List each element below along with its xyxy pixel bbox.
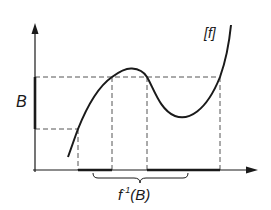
set-B-label: B [16,94,27,110]
preimage-label: f-1(B) [118,187,150,202]
highlighted-intervals [35,77,220,170]
x-axis-arrow-icon [246,167,258,174]
preimage-exponent: -1 [122,185,130,195]
y-axis-arrow-icon [32,23,39,34]
axes [33,30,250,172]
function-label: [f] [204,26,216,40]
dashed-guides [35,77,220,170]
preimage-brace [93,173,188,183]
preimage-argument: (B) [130,186,150,203]
preimage-diagram [0,0,271,210]
function-curve [68,25,231,157]
